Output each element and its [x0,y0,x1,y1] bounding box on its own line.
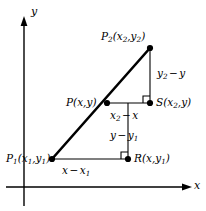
segment-label-y2-minus-y: y2−y [157,68,185,79]
distance-formula-figure: y x P2(x2,y2) P(x,y) S(x2,y) P1(x1,y1) R… [0,0,206,211]
x-axis-arrowhead [182,184,192,191]
dot-p [104,100,110,106]
dot-p2 [147,45,153,51]
segment-label-x-minus-x1: x−x1 [62,165,90,176]
point-p2-label: P2(x2,y2) [101,31,145,42]
dot-r [125,156,131,162]
segment-label-y-minus-y1: y−y1 [110,130,138,141]
dot-s [147,100,153,106]
right-angle-markers [121,96,150,159]
point-r-label: R(x,y1) [134,153,170,164]
axes-group [6,16,192,206]
segment-label-x2-minus-x: x2−x [110,110,138,121]
y-axis-arrowhead [21,16,28,26]
point-s-label: S(x2,y) [156,97,191,108]
point-p-label: P(x,y) [66,97,97,108]
y-axis-label: y [31,6,37,17]
x-axis-label: x [194,180,200,191]
point-p1-label: P1(x1,y1) [6,153,50,164]
